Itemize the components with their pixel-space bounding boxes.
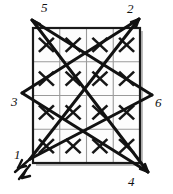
- vertex-label-4: 4: [128, 175, 135, 188]
- vertex-label-6: 6: [155, 96, 162, 109]
- star-polygon-grid-figure: 1 2 3 4 5 6: [0, 0, 173, 194]
- arrowhead-vertex-1: [15, 159, 30, 179]
- vertex-label-1: 1: [14, 148, 21, 161]
- vertex-label-5: 5: [41, 1, 48, 14]
- figure-canvas: [0, 0, 173, 194]
- vertex-label-2: 2: [127, 2, 134, 15]
- vertex-label-3: 3: [11, 95, 18, 108]
